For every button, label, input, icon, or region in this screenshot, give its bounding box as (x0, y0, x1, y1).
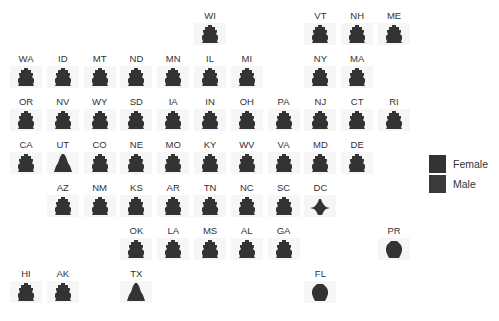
state-label: VA (266, 139, 302, 150)
state-label: PR (376, 225, 412, 236)
state-label: OR (8, 96, 44, 107)
state-label: SD (118, 96, 154, 107)
state-label: NE (118, 139, 154, 150)
state-cell-nd: ND (118, 53, 154, 95)
population-pyramid-icon (88, 196, 112, 216)
state-cell-id: ID (45, 53, 81, 95)
state-cell-va: VA (266, 139, 302, 181)
state-label: NY (302, 53, 338, 64)
state-cell-sc: SC (266, 182, 302, 224)
state-label: UT (45, 139, 81, 150)
state-cell-il: IL (192, 53, 228, 95)
state-cell-la: LA (155, 225, 191, 267)
population-pyramid-icon (124, 196, 148, 216)
state-label: FL (302, 268, 338, 279)
state-cell-ne: NE (118, 139, 154, 181)
state-label: AZ (45, 182, 81, 193)
population-pyramid-icon (51, 67, 75, 87)
state-label: WI (192, 10, 228, 21)
state-cell-mi: MI (229, 53, 265, 95)
population-pyramid-icon (382, 24, 406, 44)
population-pyramid-icon (161, 153, 185, 173)
state-cell-ct: CT (339, 96, 375, 138)
population-pyramid-icon (198, 24, 222, 44)
population-pyramid-icon (51, 110, 75, 130)
state-label: CO (82, 139, 118, 150)
state-cell-al: AL (229, 225, 265, 267)
population-pyramid-icon (235, 196, 259, 216)
state-label: WA (8, 53, 44, 64)
state-label: MT (82, 53, 118, 64)
state-cell-ok: OK (118, 225, 154, 267)
population-pyramid-icon (14, 110, 38, 130)
state-label: VT (302, 10, 338, 21)
state-label: ID (45, 53, 81, 64)
state-label: TN (192, 182, 228, 193)
population-pyramid-icon (198, 110, 222, 130)
population-pyramid-icon (124, 67, 148, 87)
state-label: TX (118, 268, 154, 279)
state-label: GA (266, 225, 302, 236)
legend-label-male: Male (453, 178, 476, 190)
population-pyramid-icon (235, 110, 259, 130)
population-pyramid-icon (198, 153, 222, 173)
state-label: CA (8, 139, 44, 150)
state-cell-ia: IA (155, 96, 191, 138)
state-cell-md: MD (302, 139, 338, 181)
state-cell-nc: NC (229, 182, 265, 224)
state-cell-ky: KY (192, 139, 228, 181)
state-label: SC (266, 182, 302, 193)
state-cell-de: DE (339, 139, 375, 181)
population-pyramid-icon (161, 67, 185, 87)
state-label: NJ (302, 96, 338, 107)
state-label: NV (45, 96, 81, 107)
population-pyramid-icon (161, 239, 185, 259)
state-cell-dc: DC (302, 182, 338, 224)
state-label: WV (229, 139, 265, 150)
state-label: OK (118, 225, 154, 236)
population-pyramid-icon (345, 110, 369, 130)
state-cell-sd: SD (118, 96, 154, 138)
population-pyramid-icon (272, 110, 296, 130)
state-label: MO (155, 139, 191, 150)
state-cell-az: AZ (45, 182, 81, 224)
population-pyramid-icon (51, 282, 75, 302)
state-cell-fl: FL (302, 268, 338, 310)
population-pyramid-icon (198, 67, 222, 87)
state-cell-nv: NV (45, 96, 81, 138)
population-pyramid-icon (345, 153, 369, 173)
population-pyramid-icon (272, 239, 296, 259)
population-pyramid-icon (308, 24, 332, 44)
state-label: NH (339, 10, 375, 21)
population-pyramid-icon (272, 153, 296, 173)
legend-swatch-female (429, 155, 446, 173)
state-label: DE (339, 139, 375, 150)
population-pyramid-icon (308, 153, 332, 173)
state-cell-oh: OH (229, 96, 265, 138)
state-cell-hi: HI (8, 268, 44, 310)
state-label: MA (339, 53, 375, 64)
population-pyramid-icon (51, 196, 75, 216)
state-cell-pa: PA (266, 96, 302, 138)
population-pyramid-icon (308, 67, 332, 87)
state-cell-in: IN (192, 96, 228, 138)
population-pyramid-icon (14, 153, 38, 173)
population-pyramid-icon (382, 239, 406, 259)
state-label: PA (266, 96, 302, 107)
state-label: HI (8, 268, 44, 279)
state-cell-co: CO (82, 139, 118, 181)
state-cell-ca: CA (8, 139, 44, 181)
population-pyramid-icon (14, 282, 38, 302)
state-label: NC (229, 182, 265, 193)
state-label: KS (118, 182, 154, 193)
population-pyramid-icon (88, 67, 112, 87)
state-label: ND (118, 53, 154, 64)
state-label: AR (155, 182, 191, 193)
state-label: CT (339, 96, 375, 107)
population-pyramid-icon (14, 67, 38, 87)
population-pyramid-icon (124, 239, 148, 259)
population-pyramid-icon (382, 110, 406, 130)
state-cell-nh: NH (339, 10, 375, 52)
population-pyramid-icon (308, 196, 332, 216)
population-pyramid-icon (198, 239, 222, 259)
